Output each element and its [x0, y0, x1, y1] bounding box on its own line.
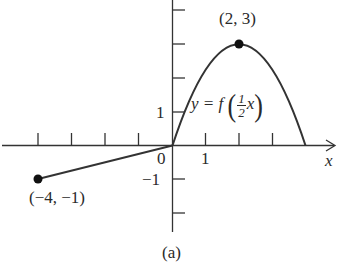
equation-var: x	[247, 94, 255, 113]
x-ticks	[38, 133, 273, 145]
fraction: 12	[237, 92, 246, 119]
equation-label: y = f (12x)	[191, 92, 263, 119]
peak-point-label: (2, 3)	[219, 10, 256, 27]
x-tick-label-1: 1	[201, 150, 210, 167]
y-tick-label-neg1: −1	[142, 171, 160, 188]
left-point-label: (−4, −1)	[29, 189, 85, 206]
origin-label: 0	[157, 150, 166, 167]
fraction-numerator: 1	[237, 92, 246, 106]
caption: (a)	[162, 244, 181, 261]
graph-canvas	[0, 0, 337, 277]
right-paren-icon: )	[254, 90, 263, 121]
x-axis-label: x	[325, 152, 333, 169]
left-paren-icon: (	[228, 90, 237, 121]
fraction-denominator: 2	[237, 106, 246, 119]
y-ticks	[172, 10, 185, 213]
y-tick-label-1: 1	[156, 104, 165, 121]
left-endpoint	[34, 175, 43, 184]
equation-lhs: y = f	[191, 94, 223, 113]
peak-point	[235, 40, 244, 49]
